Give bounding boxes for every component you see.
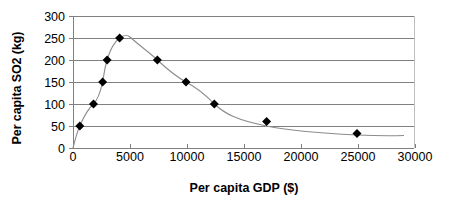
x-axis-ticks bbox=[73, 144, 415, 148]
data-point bbox=[182, 78, 191, 87]
x-tick-label: 15000 bbox=[214, 150, 274, 164]
x-tick-label: 5000 bbox=[100, 150, 160, 164]
x-tick-label: 30000 bbox=[385, 150, 445, 164]
x-tick-label: 10000 bbox=[157, 150, 217, 164]
data-point bbox=[262, 117, 271, 126]
data-point bbox=[353, 129, 362, 138]
x-tick-label: 20000 bbox=[271, 150, 331, 164]
data-point bbox=[75, 122, 84, 131]
y-axis-ticks bbox=[69, 16, 73, 148]
gridlines bbox=[73, 16, 414, 126]
data-point-markers bbox=[75, 34, 361, 139]
x-axis-title: Per capita GDP ($) bbox=[73, 181, 415, 195]
data-curve bbox=[73, 35, 404, 148]
data-point bbox=[103, 56, 112, 65]
x-tick-label: 0 bbox=[43, 150, 103, 164]
chart-container: Per capita SO2 (kg) 300 250 200 150 100 … bbox=[0, 0, 457, 212]
data-point bbox=[98, 78, 107, 87]
x-tick-label: 25000 bbox=[328, 150, 388, 164]
